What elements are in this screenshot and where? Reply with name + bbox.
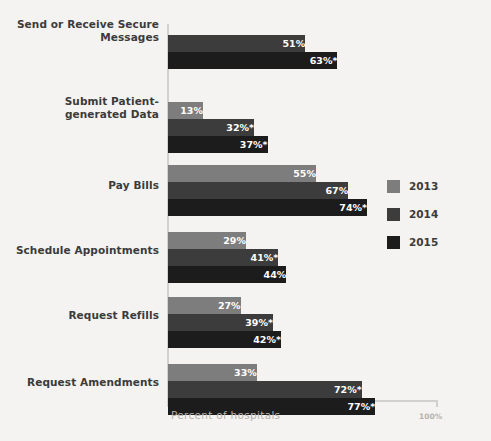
x-axis-max-label: 100% <box>419 412 442 421</box>
bar-row: 37%* <box>168 136 437 153</box>
bar-row: 33% <box>168 364 437 381</box>
bar-value-label: 44% <box>168 266 291 283</box>
category-label: Request Amendments <box>9 376 159 389</box>
bar-value-label: 63%* <box>168 52 342 69</box>
bar-row: 63%* <box>168 52 437 69</box>
category-label: Send or Receive Secure Messages <box>9 18 159 44</box>
legend-swatch-icon <box>387 236 400 249</box>
bar-row: 27% <box>168 297 437 314</box>
bar-value-label: 39%* <box>168 314 278 331</box>
bar-row: 32%* <box>168 119 437 136</box>
bar-value-label: 41%* <box>168 249 283 266</box>
legend-label: 2015 <box>409 236 438 248</box>
bar-row: 42%* <box>168 331 437 348</box>
legend-item-2013[interactable]: 2013 <box>387 172 438 200</box>
bar-chart: 51%63%*13%32%*37%*55%67%74%*29%41%*44%27… <box>0 0 491 441</box>
legend-label: 2013 <box>409 180 438 192</box>
bar-row: 51% <box>168 35 437 52</box>
bar-value-label: 32%* <box>168 119 259 136</box>
bar-row: 72%* <box>168 381 437 398</box>
category-label: Schedule Appointments <box>9 244 159 257</box>
legend-item-2014[interactable]: 2014 <box>387 200 438 228</box>
bar-value-label: 29% <box>168 232 251 249</box>
bar-value-label: 13% <box>168 102 208 119</box>
legend: 201320142015 <box>387 172 438 256</box>
bar-value-label: 72%* <box>168 381 367 398</box>
bar-value-label: 67% <box>168 182 353 199</box>
bar-row: 13% <box>168 102 437 119</box>
category-label: Submit Patient-generated Data <box>9 95 159 121</box>
legend-item-2015[interactable]: 2015 <box>387 228 438 256</box>
legend-label: 2014 <box>409 208 438 220</box>
bar-value-label: 33% <box>168 364 262 381</box>
bar-value-label: 74%* <box>168 199 372 216</box>
bar-value-label: 42%* <box>168 331 286 348</box>
bar-value-label: 27% <box>168 297 246 314</box>
legend-swatch-icon <box>387 208 400 221</box>
legend-swatch-icon <box>387 180 400 193</box>
category-label: Request Refills <box>9 309 159 322</box>
category-label: Pay Bills <box>9 179 159 192</box>
bar-value-label: 55% <box>168 165 321 182</box>
bar-value-label: 51% <box>168 35 310 52</box>
bar-value-label: 37%* <box>168 136 273 153</box>
bar-row: 39%* <box>168 314 437 331</box>
bar-row: 44% <box>168 266 437 283</box>
x-axis-title: Percent of hospitals <box>171 409 280 421</box>
